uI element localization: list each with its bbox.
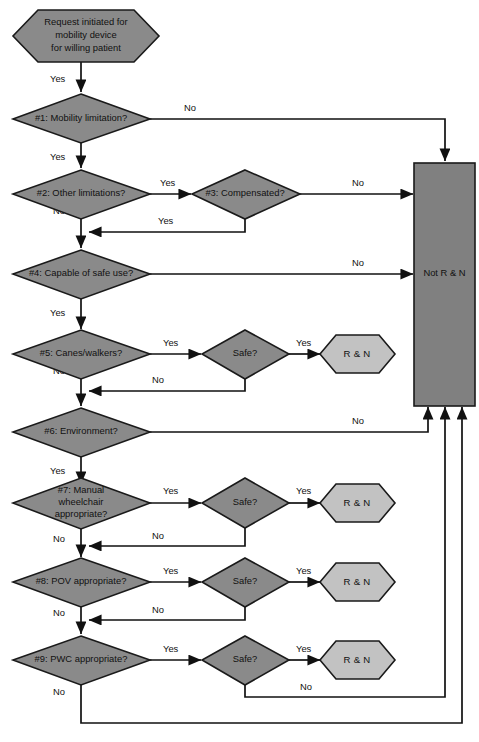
- rn-7-label: R & N: [343, 497, 370, 508]
- q7-label-line3: appropriate?: [55, 508, 108, 519]
- edge-label-q4-no: No: [352, 257, 364, 268]
- edge-label-q6-yes: Yes: [50, 465, 66, 476]
- edge-label-safe8-no: No: [152, 604, 164, 615]
- edge-label-q8-yes: Yes: [163, 565, 179, 576]
- edge-label-safe8-yes: Yes: [296, 565, 312, 576]
- edge-label-safe7-no: No: [152, 530, 164, 541]
- q5-label: #5: Canes/walkers?: [40, 347, 122, 358]
- edge-label-safe7-yes: Yes: [296, 485, 312, 496]
- edge-label-q1-no: No: [184, 102, 196, 113]
- q9-safe-label: Safe?: [233, 653, 258, 664]
- edge-label-q9-yes: Yes: [163, 643, 179, 654]
- edge-label-q7-yes: Yes: [163, 485, 179, 496]
- q6-label: #6: Environment?: [44, 425, 117, 436]
- node-rn-5[interactable]: R & N: [320, 335, 395, 373]
- rn-8-label: R & N: [343, 576, 370, 587]
- q1-label: #1: Mobility limitation?: [35, 112, 127, 123]
- node-rn-8[interactable]: R & N: [320, 563, 395, 601]
- edge-label-q3-no: No: [352, 177, 364, 188]
- node-rn-7[interactable]: R & N: [320, 484, 395, 522]
- q9-label: #9: PWC appropriate?: [35, 653, 128, 664]
- rn-9-label: R & N: [343, 654, 370, 665]
- edge-label-safe5-no: No: [152, 374, 164, 385]
- q7-label-line1: #7: Manual: [58, 484, 104, 495]
- edge-label-q3-yes: Yes: [158, 215, 174, 226]
- start-label-line1: Request initiated for: [44, 16, 127, 27]
- flowchart-canvas: Yes No Yes Yes No No Yes No Yes Yes No Y…: [0, 0, 479, 742]
- edge-label-q9-no: No: [53, 686, 65, 697]
- edge-label-start-yes: Yes: [50, 73, 66, 84]
- edge-label-q1-yes: Yes: [50, 151, 66, 162]
- q2-label: #2: Other limitations?: [37, 187, 126, 198]
- q4-label: #4: Capable of safe use?: [29, 267, 133, 278]
- edge-label-q5-yes: Yes: [163, 337, 179, 348]
- q8-safe-label: Safe?: [233, 575, 258, 586]
- flowchart-svg: Yes No Yes Yes No No Yes No Yes Yes No Y…: [0, 0, 479, 742]
- node-not-rn[interactable]: Not R & N: [414, 163, 475, 406]
- edge-label-q2-yes: Yes: [160, 177, 176, 188]
- edge-label-q7-no: No: [53, 533, 65, 544]
- q7-label-line2: wheelchair: [58, 496, 104, 507]
- edge-label-safe5-yes: Yes: [296, 337, 312, 348]
- q8-label: #8: POV appropriate?: [36, 575, 127, 586]
- rn-5-label: R & N: [343, 348, 370, 359]
- start-label-line3: for willing patient: [51, 42, 121, 53]
- q7-safe-label: Safe?: [233, 496, 258, 507]
- edge-label-q8-no: No: [53, 607, 65, 618]
- edge-label-safe9-yes: Yes: [296, 643, 312, 654]
- node-start[interactable]: Request initiated for mobility device fo…: [13, 10, 159, 62]
- node-rn-9[interactable]: R & N: [320, 641, 395, 679]
- edge-label-q4-yes: Yes: [50, 307, 66, 318]
- not-rn-rect-shape: [414, 163, 475, 406]
- edge-label-q6-no: No: [352, 415, 364, 426]
- q5-safe-label: Safe?: [233, 347, 258, 358]
- edge-label-safe9-no: No: [300, 681, 312, 692]
- q3-label: #3: Compensated?: [205, 187, 284, 198]
- not-rn-label: Not R & N: [423, 267, 465, 278]
- start-label-line2: mobility device: [55, 29, 116, 40]
